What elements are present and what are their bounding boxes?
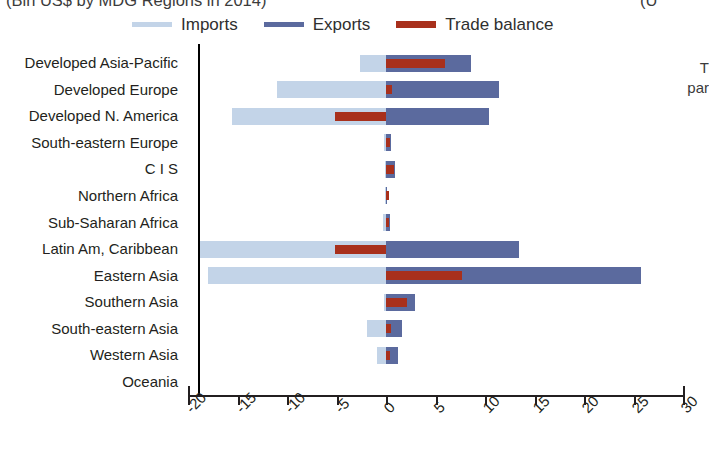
side-annotation-line1: T <box>687 58 709 78</box>
bar-trade-balance[interactable] <box>386 191 389 200</box>
chart-row <box>188 236 683 263</box>
category-axis-labels: Developed Asia-PacificDeveloped EuropeDe… <box>0 50 182 395</box>
chart-row <box>188 103 683 130</box>
bar-trade-balance[interactable] <box>386 59 445 68</box>
legend-swatch-trade-balance <box>396 21 436 28</box>
chart-row <box>188 368 683 395</box>
bar-imports[interactable] <box>277 81 386 98</box>
chart-title-right-clipped: (U <box>640 0 657 10</box>
side-annotation-line2: par <box>687 78 709 98</box>
chart-title-clipped: (Bln US$ by MDG Regions in 2014) <box>6 0 266 10</box>
zero-axis-line <box>198 44 200 396</box>
legend-swatch-exports <box>264 22 304 27</box>
bar-trade-balance[interactable] <box>386 271 462 280</box>
bar-exports[interactable] <box>386 241 519 258</box>
category-label: Western Asia <box>90 347 178 362</box>
x-tick-label: 0 <box>380 398 398 416</box>
bar-trade-balance[interactable] <box>386 218 389 227</box>
category-label: Developed Asia-Pacific <box>25 55 178 70</box>
category-label: South-eastern Asia <box>51 321 178 336</box>
legend-label-trade-balance: Trade balance <box>445 16 553 33</box>
bar-trade-balance[interactable] <box>386 324 391 333</box>
bar-imports[interactable] <box>360 55 386 72</box>
bar-trade-balance[interactable] <box>335 245 386 254</box>
legend-item-exports[interactable]: Exports <box>264 16 371 33</box>
bar-trade-balance[interactable] <box>386 138 390 147</box>
legend-label-imports: Imports <box>181 16 238 33</box>
chart-row <box>188 209 683 236</box>
legend-label-exports: Exports <box>313 16 371 33</box>
side-annotation-clipped: T par <box>687 58 709 98</box>
category-label: C I S <box>145 161 178 176</box>
x-tick-label: -5 <box>331 395 352 416</box>
category-label: Developed N. America <box>29 108 178 123</box>
category-label: South-eastern Europe <box>31 135 178 150</box>
category-label: Latin Am, Caribbean <box>42 241 178 256</box>
legend-item-trade-balance[interactable]: Trade balance <box>396 16 553 33</box>
bar-trade-balance[interactable] <box>386 85 392 94</box>
chart-row <box>188 130 683 157</box>
chart-row <box>188 50 683 77</box>
chart-row <box>188 262 683 289</box>
bar-imports[interactable] <box>367 320 386 337</box>
bar-exports[interactable] <box>386 108 489 125</box>
bar-trade-balance[interactable] <box>386 351 390 360</box>
bar-imports[interactable] <box>208 267 386 284</box>
category-label: Southern Asia <box>85 294 178 309</box>
category-label: Eastern Asia <box>94 268 178 283</box>
chart-legend: Imports Exports Trade balance <box>132 16 553 33</box>
bar-trade-balance[interactable] <box>335 112 386 121</box>
category-label: Developed Europe <box>54 82 178 97</box>
legend-item-imports[interactable]: Imports <box>132 16 238 33</box>
category-label: Oceania <box>122 374 178 389</box>
x-axis-end-cap <box>188 386 190 396</box>
category-label: Northern Africa <box>78 188 178 203</box>
bar-trade-balance[interactable] <box>386 298 407 307</box>
plot-area <box>188 50 683 395</box>
bar-exports[interactable] <box>386 81 499 98</box>
bar-trade-balance[interactable] <box>386 165 394 174</box>
chart-row <box>188 342 683 369</box>
x-tick-label: 5 <box>430 398 448 416</box>
chart-row <box>188 156 683 183</box>
legend-swatch-imports <box>132 22 172 27</box>
bar-imports[interactable] <box>377 347 386 364</box>
chart-row <box>188 315 683 342</box>
chart-row <box>188 289 683 316</box>
category-label: Sub-Saharan Africa <box>48 215 178 230</box>
chart-row <box>188 77 683 104</box>
chart-row <box>188 183 683 210</box>
x-axis-end-cap <box>683 386 685 396</box>
